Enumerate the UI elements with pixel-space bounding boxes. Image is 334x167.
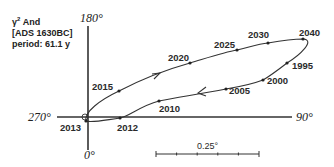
- epoch-label: 2012: [117, 123, 138, 133]
- epoch-label: 2025: [214, 40, 235, 50]
- epoch-label: 2020: [168, 53, 189, 63]
- catalog-id: [ADS 1630BC]: [12, 28, 73, 39]
- arrow-upper-icon: [152, 73, 160, 79]
- axis-label-top: 180°: [80, 12, 103, 24]
- epoch-label: 2030: [248, 30, 269, 40]
- epoch-label: 1995: [292, 61, 313, 71]
- orbit-diagram: γ2 And [ADS 1630BC] period: 61.1 y 180° …: [0, 0, 334, 167]
- arrow-lower-icon: [198, 87, 206, 96]
- axis-label-bottom: 0°: [84, 149, 95, 161]
- epoch-label: 2013: [60, 123, 81, 133]
- orbital-period: period: 61.1 y: [12, 39, 73, 50]
- epoch-label: 2010: [159, 104, 180, 114]
- epoch-label: 2015: [92, 82, 113, 92]
- epoch-label: 2005: [229, 86, 250, 96]
- star-info: γ2 And [ADS 1630BC] period: 61.1 y: [12, 14, 73, 50]
- star-name: γ2 And: [12, 14, 73, 28]
- epoch-label: 2040: [299, 28, 320, 38]
- axis-label-left: 270°: [28, 111, 51, 123]
- epoch-label: 2000: [267, 76, 288, 86]
- axis-label-right: 90°: [296, 111, 313, 123]
- scale-bar-label: 0.25°: [197, 142, 218, 151]
- scale-bar: [156, 151, 259, 157]
